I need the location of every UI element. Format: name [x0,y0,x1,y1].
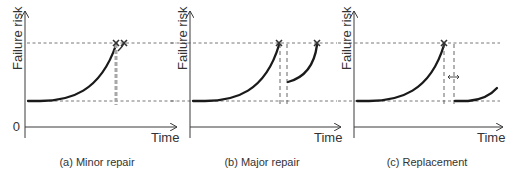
panel-replacement: Failure risk Time (c) Replacement [338,6,505,168]
risk-curve [357,45,444,101]
caption-minor-repair: (a) Minor repair [59,156,135,168]
caption-major-repair: (b) Major repair [224,156,300,168]
y-axis-label: Failure risk [339,6,354,70]
double-arrow-icon [448,75,459,79]
failure-risk-diagram: 0 Failure risk Time (a) Minor repair Fai… [0,0,518,179]
origin-label: 0 [13,119,20,134]
risk-curve [193,45,279,101]
x-axis-label: Time [314,130,342,145]
y-axis-label: Failure risk [175,6,190,70]
panel-minor-repair: 0 Failure risk Time (a) Minor repair [10,6,179,168]
panel-major-repair: Failure risk Time (b) Major repair [171,6,342,168]
y-axis-label: Failure risk [10,6,25,70]
post-replacement-curve [455,88,497,101]
post-repair-curve [288,45,317,82]
x-axis-label: Time [151,130,179,145]
risk-curve [28,45,116,101]
caption-replacement: (c) Replacement [387,156,468,168]
x-axis-label: Time [477,130,505,145]
